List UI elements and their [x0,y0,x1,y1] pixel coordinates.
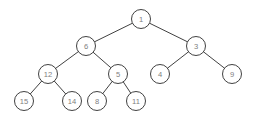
node-label-4: 4 [158,70,162,79]
tree-edge-6-12 [56,52,79,69]
tree-nodes: 163125491514811 [15,10,242,111]
node-label-11: 11 [132,97,140,106]
node-label-5: 5 [116,70,120,79]
tree-edge-1-6 [95,23,133,42]
tree-edge-6-5 [93,52,111,67]
tree-node-4[interactable]: 4 [151,65,170,84]
tree-edge-1-3 [150,23,188,42]
tree-node-6[interactable]: 6 [77,37,96,56]
tree-node-9[interactable]: 9 [223,65,242,84]
tree-edge-3-9 [204,52,225,68]
tree-node-5[interactable]: 5 [109,65,128,84]
node-label-6: 6 [84,42,88,51]
tree-edges [30,23,224,94]
tree-edge-5-8 [103,82,112,94]
tree-edge-12-14 [54,81,65,94]
node-label-14: 14 [68,97,76,106]
tree-canvas: 163125491514811 [0,0,258,120]
tree-node-14[interactable]: 14 [63,92,82,111]
node-label-8: 8 [95,97,99,106]
node-label-12: 12 [44,70,52,79]
tree-node-1[interactable]: 1 [132,10,151,29]
tree-edge-12-15 [30,81,41,94]
tree-edge-5-11 [123,82,130,93]
node-label-15: 15 [20,97,28,106]
tree-edge-3-4 [168,52,189,68]
tree-node-11[interactable]: 11 [127,92,146,111]
tree-node-15[interactable]: 15 [15,92,34,111]
node-label-9: 9 [230,70,234,79]
node-label-3: 3 [194,42,198,51]
node-label-1: 1 [139,15,143,24]
binary-tree-diagram: 163125491514811 [0,0,258,120]
tree-node-3[interactable]: 3 [187,37,206,56]
tree-node-8[interactable]: 8 [88,92,107,111]
tree-node-12[interactable]: 12 [39,65,58,84]
